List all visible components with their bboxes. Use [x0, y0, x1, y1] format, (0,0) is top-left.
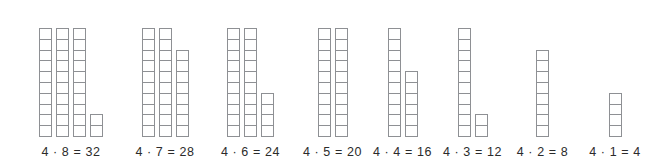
unit-square — [261, 125, 274, 137]
unit-square-columns — [510, 8, 575, 137]
unit-square — [142, 125, 155, 137]
unit-square — [536, 125, 549, 137]
unit-square-column — [90, 114, 103, 137]
unit-square — [90, 125, 103, 137]
unit-square-column — [176, 50, 189, 137]
unit-square — [388, 125, 401, 137]
fact-group-28: 4 · 7 = 28 — [125, 0, 205, 165]
unit-square-columns — [370, 8, 435, 137]
fact-label: 4 · 5 = 20 — [300, 145, 365, 159]
fact-label: 4 · 6 = 24 — [208, 145, 293, 159]
unit-square-columns — [125, 8, 205, 137]
fact-group-16: 4 · 4 = 16 — [370, 0, 435, 165]
unit-square-column — [335, 28, 348, 137]
unit-square-columns — [26, 8, 116, 137]
fact-group-4: 4 · 1 = 4 — [580, 0, 650, 165]
unit-square-column — [536, 50, 549, 137]
unit-square — [475, 125, 488, 137]
unit-square-columns — [300, 8, 365, 137]
unit-square — [227, 125, 240, 137]
unit-square — [335, 125, 348, 137]
fact-group-20: 4 · 5 = 20 — [300, 0, 365, 165]
fact-group-32: 4 · 8 = 32 — [26, 0, 116, 165]
fact-label: 4 · 1 = 4 — [580, 145, 650, 159]
unit-square-column — [609, 93, 622, 137]
fact-group-24: 4 · 6 = 24 — [208, 0, 293, 165]
unit-square — [39, 125, 52, 137]
unit-square — [318, 125, 331, 137]
unit-square — [458, 125, 471, 137]
unit-square — [73, 125, 86, 137]
unit-square-column — [73, 28, 86, 137]
unit-square-column — [261, 93, 274, 137]
unit-square-column — [318, 28, 331, 137]
unit-square — [176, 125, 189, 137]
fact-label: 4 · 4 = 16 — [370, 145, 435, 159]
unit-square-columns — [440, 8, 505, 137]
unit-square — [405, 125, 418, 137]
unit-square-column — [227, 28, 240, 137]
fact-group-8: 4 · 2 = 8 — [510, 0, 575, 165]
fact-label: 4 · 8 = 32 — [26, 145, 116, 159]
fact-label: 4 · 7 = 28 — [125, 145, 205, 159]
fact-group-12: 4 · 3 = 12 — [440, 0, 505, 165]
unit-square-columns — [208, 8, 293, 137]
unit-square-column — [56, 28, 69, 137]
multiplication-diagram: 4 · 8 = 324 · 7 = 284 · 6 = 244 · 5 = 20… — [0, 0, 659, 165]
unit-square-column — [39, 28, 52, 137]
unit-square — [244, 125, 257, 137]
unit-square — [609, 125, 622, 137]
unit-square-column — [244, 28, 257, 137]
unit-square-column — [159, 28, 172, 137]
fact-label: 4 · 2 = 8 — [510, 145, 575, 159]
unit-square-column — [475, 114, 488, 137]
unit-square — [159, 125, 172, 137]
unit-square-column — [458, 28, 471, 137]
fact-label: 4 · 3 = 12 — [440, 145, 505, 159]
unit-square-columns — [580, 8, 650, 137]
unit-square-column — [405, 71, 418, 137]
unit-square-column — [142, 28, 155, 137]
unit-square-column — [388, 28, 401, 137]
unit-square — [56, 125, 69, 137]
